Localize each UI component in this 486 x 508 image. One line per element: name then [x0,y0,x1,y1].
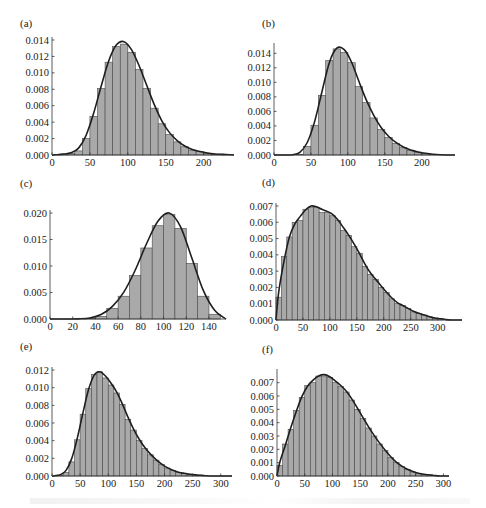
histogram-bar [148,455,154,476]
y-tick-label: 0.005 [250,404,274,415]
histogram-bar [314,208,319,320]
x-tick-label: 0 [273,322,278,333]
histogram-bar [97,372,103,476]
x-tick-label: 150 [158,157,174,168]
histogram-bar [118,296,129,319]
y-tick-label: 0.000 [249,315,273,326]
histogram-bar [382,451,388,476]
figure-canvas: (a)0.0000.0020.0040.0060.0080.0100.0120.… [0,0,486,508]
x-tick-label: 140 [201,321,217,332]
histogram-bar [332,383,338,476]
y-tick-label: 0.008 [25,400,49,411]
y-tick-label: 0.005 [23,287,47,298]
y-tick-label: 0.004 [25,117,49,128]
histogram-bar [310,383,316,476]
y-tick-label: 0.002 [250,444,274,455]
histogram-bar [363,103,370,155]
x-tick-label: 250 [403,322,419,333]
y-tick-label: 0.001 [250,457,274,468]
x-tick-label: 50 [75,478,86,489]
histogram-bar [298,221,303,320]
histogram-bar [125,419,131,476]
histogram-bar [299,397,305,476]
x-tick-label: 300 [430,322,446,333]
histogram-bar [316,376,322,476]
histogram-bar [341,230,346,320]
y-tick-label: 0.012 [247,62,271,73]
histogram-bar [344,392,350,476]
x-tick-label: 300 [436,478,452,489]
x-tick-label: 100 [100,478,116,489]
histogram-bar [338,387,344,476]
histogram-bar [114,393,120,476]
x-tick-label: 250 [408,478,424,489]
x-tick-label: 0 [49,157,54,168]
histogram-bar [373,279,378,320]
x-tick-label: 0 [274,478,279,489]
x-tick-label: 100 [322,322,338,333]
x-tick-label: 0 [47,321,52,332]
y-tick-label: 0.002 [247,135,271,146]
histogram-bar [292,222,297,320]
x-tick-label: 200 [414,157,430,168]
x-tick-label: 50 [306,157,317,168]
histogram-bar [321,376,327,476]
histogram-bar [164,215,175,319]
histogram-bar [108,385,114,476]
y-tick-label: 0.007 [249,201,273,212]
histogram-bar [91,374,97,476]
x-tick-label: 20 [67,321,78,332]
x-tick-label: 300 [213,478,229,489]
histogram-bar [153,460,159,476]
histogram-bar [411,312,416,320]
x-tick-label: 100 [340,157,356,168]
histogram-bar [141,248,152,319]
x-tick-label: 200 [157,478,173,489]
histogram-bar [113,47,121,155]
histogram-bar [385,138,392,155]
histogram-bar [325,213,330,320]
panel-d-histogram: (d)0.0000.0010.0020.0030.0040.0050.0060.… [249,176,462,333]
y-tick-label: 0.000 [247,150,271,161]
y-tick-label: 0.008 [247,91,271,102]
y-tick-label: 0.007 [250,377,274,388]
histogram-bar [158,124,166,155]
x-tick-label: 120 [178,321,194,332]
panel-c-histogram: (c)0.0000.0050.0100.0150.020020406080100… [20,177,226,332]
histogram-bar [377,130,384,155]
histogram-bar [98,88,106,155]
y-tick-label: 0.000 [25,471,49,482]
panel-label: (f) [262,343,273,356]
y-tick-label: 0.015 [23,234,47,245]
histogram-bar [294,411,300,476]
histogram-bar [128,52,136,155]
y-tick-label: 0.000 [250,471,274,482]
histogram-bar [120,44,128,155]
histogram-bar [308,208,313,320]
x-tick-label: 150 [129,478,145,489]
histogram-bar [75,151,83,155]
y-tick-label: 0.010 [23,261,47,272]
histogram-bar [370,118,377,155]
histogram-bar [86,389,92,476]
y-tick-label: 0.008 [25,84,49,95]
histogram-bar [129,276,140,319]
y-tick-label: 0.004 [247,120,271,131]
x-tick-label: 50 [299,478,310,489]
histogram-bar [330,216,335,320]
x-tick-label: 100 [120,157,136,168]
x-tick-label: 60 [113,321,124,332]
y-tick-label: 0.014 [247,48,271,59]
y-tick-label: 0.004 [25,435,49,446]
y-tick-label: 0.006 [25,418,49,429]
x-tick-label: 40 [90,321,101,332]
histogram-bar [305,385,311,476]
histogram-bar [131,430,137,476]
x-tick-label: 150 [352,478,368,489]
histogram-bar [319,213,324,320]
x-tick-label: 50 [298,322,309,333]
y-tick-label: 0.006 [25,100,49,111]
y-tick-label: 0.005 [249,233,273,244]
panel-b-histogram: (b)0.0000.0020.0040.0060.0080.0100.0120.… [247,17,455,168]
panel-label: (a) [20,17,33,30]
